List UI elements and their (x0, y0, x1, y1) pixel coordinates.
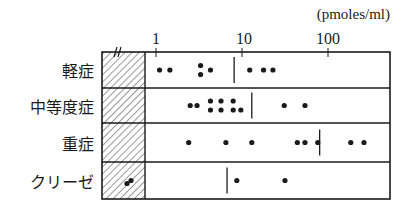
data-point (157, 67, 162, 72)
series-2 (186, 130, 366, 156)
data-point (223, 140, 228, 145)
data-point (361, 140, 366, 145)
data-point (238, 107, 243, 112)
series-1 (188, 93, 308, 119)
data-point (282, 103, 287, 108)
data-point (167, 67, 172, 72)
plot-area (0, 0, 404, 207)
data-point (234, 178, 239, 183)
data-point (302, 103, 307, 108)
data-point (348, 140, 353, 145)
data-point (198, 63, 203, 68)
data-point (261, 67, 266, 72)
data-point (302, 140, 307, 145)
data-point (208, 107, 213, 112)
data-point (186, 140, 191, 145)
data-point (218, 98, 223, 103)
data-point (249, 140, 254, 145)
data-point (198, 72, 203, 77)
plot-frame (102, 47, 390, 199)
data-point (208, 67, 213, 72)
series-0 (157, 57, 276, 83)
data-point (231, 107, 236, 112)
data-point (188, 103, 193, 108)
data-point (295, 140, 300, 145)
dot-plot-chart: (pmoles/ml) 1 10 100 軽症 中等度症 重症 クリーゼ (0, 0, 404, 207)
data-point (231, 98, 236, 103)
hatched-region (102, 52, 145, 199)
data-point (247, 67, 252, 72)
data-point-undetectable (128, 178, 133, 183)
data-point (194, 103, 199, 108)
data-point (270, 67, 275, 72)
series-3 (124, 168, 287, 194)
data-point (218, 107, 223, 112)
data-point (282, 178, 287, 183)
data-points (124, 57, 366, 194)
data-point (208, 98, 213, 103)
